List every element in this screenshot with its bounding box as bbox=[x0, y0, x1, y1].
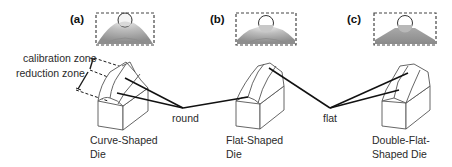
panel-label-b: (b) bbox=[210, 13, 225, 25]
die-b-caption-line1: Flat-Shaped bbox=[226, 134, 283, 147]
round-callout-label: round bbox=[172, 112, 199, 125]
reduction-zone-label: reduction zone bbox=[16, 67, 85, 80]
die-c-caption-line2: Shaped Die bbox=[372, 148, 427, 161]
die-b-caption-line2: Die bbox=[226, 148, 242, 161]
panel-label-a: (a) bbox=[70, 13, 84, 25]
die-c-caption-line1: Double-Flat- bbox=[372, 134, 430, 147]
inset-c bbox=[374, 13, 436, 45]
die-a-caption-line2: Die bbox=[90, 148, 106, 161]
panel-label-c: (c) bbox=[347, 13, 361, 25]
inset-b bbox=[236, 13, 296, 45]
die-a bbox=[98, 62, 148, 130]
flat-callout-label: flat bbox=[323, 112, 337, 125]
calibration-zone-label: calibration zone bbox=[23, 52, 97, 65]
inset-a bbox=[96, 13, 154, 45]
die-a-caption-line1: Curve-Shaped bbox=[90, 134, 158, 147]
